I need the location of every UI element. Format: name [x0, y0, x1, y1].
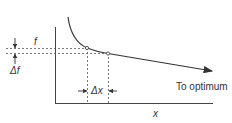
delta-f-label: Δf: [10, 66, 20, 76]
to-optimum-label: To optimum: [176, 82, 228, 92]
diagram-canvas: [0, 0, 232, 123]
delta-x-label: Δx: [91, 86, 103, 96]
x-axis-label: x: [153, 109, 158, 119]
point-2: [106, 52, 109, 55]
point-1: [85, 46, 88, 49]
f-label: f: [34, 37, 37, 47]
optimum-direction-arrow: [108, 54, 212, 72]
